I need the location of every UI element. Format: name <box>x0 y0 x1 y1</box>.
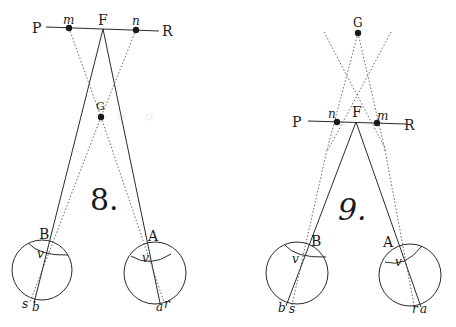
label-v-left: v <box>37 247 44 261</box>
label-r-lower: r <box>164 297 171 311</box>
label-s: s <box>22 297 28 311</box>
figure-8: P R F m n G B A v v s b a r 8. <box>12 12 186 314</box>
figure-number-9: 9. <box>338 192 367 227</box>
ray-f-to-b <box>34 29 103 303</box>
label-v-right: v <box>395 255 402 269</box>
label-s: s <box>289 302 295 316</box>
label-a-lower: a <box>156 300 163 314</box>
dotted-ray-g-n <box>327 33 358 150</box>
label-b-lower: b <box>278 301 286 315</box>
label-a: A <box>147 228 159 244</box>
label-f: F <box>352 104 362 120</box>
label-n: n <box>328 107 336 121</box>
label-r: R <box>404 117 415 133</box>
label-b: B <box>39 226 49 242</box>
ghost-point-2 <box>146 114 152 120</box>
figure-9: P R F n m G B A v v b s r a 9. <box>266 16 441 316</box>
label-v-left: v <box>292 252 299 266</box>
label-g: G <box>353 16 363 30</box>
label-f: F <box>98 12 108 28</box>
label-b: B <box>311 233 321 249</box>
label-a-lower: a <box>420 302 427 316</box>
eye-a <box>124 242 186 304</box>
label-n: n <box>132 14 140 28</box>
point-g <box>355 30 361 36</box>
figure-number-8: 8. <box>90 182 119 217</box>
label-m: m <box>63 13 74 27</box>
label-v-right: v <box>142 251 149 265</box>
dotted-ray-m-r <box>385 150 414 305</box>
label-r: R <box>162 23 173 39</box>
point-g <box>98 114 104 120</box>
dotted-ray-outer-left <box>324 32 386 150</box>
label-b-lower: b <box>32 300 40 314</box>
binocular-vision-diagram: P R F m n G B A v v s b a r 8. <box>0 0 456 327</box>
dotted-ray-n-s <box>292 150 327 305</box>
label-g: G <box>96 100 105 113</box>
label-m: m <box>377 109 388 123</box>
label-r-lower: r <box>412 302 419 316</box>
label-a: A <box>382 234 394 250</box>
label-p: P <box>292 114 301 130</box>
label-p: P <box>32 20 41 36</box>
